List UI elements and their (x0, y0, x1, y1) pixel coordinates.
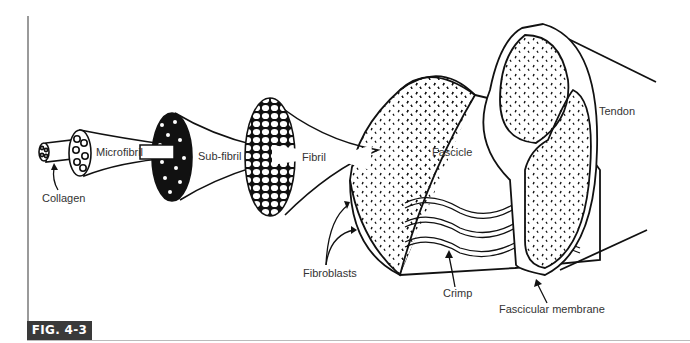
fibroblasts-arrow-upper (326, 205, 348, 265)
tendon-hierarchy-diagram (0, 0, 690, 343)
label-tendon: Tendon (599, 105, 635, 117)
label-collagen: Collagen (42, 192, 85, 204)
label-crimp: Crimp (443, 287, 472, 299)
collagen-structure (39, 140, 72, 162)
fascicular-membrane-arrow (538, 285, 547, 303)
label-fibroblasts: Fibroblasts (303, 267, 357, 279)
label-fascicle: Fascicle (432, 146, 472, 158)
label-microfibril: Microfibril (96, 146, 143, 158)
label-fascicular-membrane: Fascicular membrane (499, 303, 605, 315)
label-sub-fibril: Sub-fibril (198, 150, 241, 162)
collagen-arrow (54, 168, 59, 190)
figure-number-badge: FIG. 4-3 (27, 321, 92, 340)
label-fibril: Fibril (302, 151, 326, 163)
